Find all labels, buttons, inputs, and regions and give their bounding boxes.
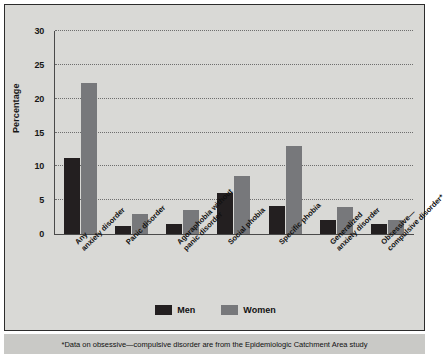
footnote-text: *Data on obsessive—compulsive disorder a… — [62, 340, 368, 349]
legend-item-women: Women — [221, 305, 275, 315]
legend-swatch-women — [221, 305, 238, 315]
y-tick-label-0: 0 — [39, 229, 49, 239]
legend-label-women: Women — [243, 305, 275, 315]
bar-men — [115, 226, 131, 234]
bar-group — [157, 31, 208, 234]
y-tick-label-30: 30 — [34, 26, 49, 36]
y-tick-label-5: 5 — [39, 195, 49, 205]
legend-swatch-men — [155, 305, 172, 315]
chart-legend: MenWomen — [5, 305, 426, 315]
legend-item-men: Men — [155, 305, 195, 315]
y-tick-label-20: 20 — [34, 94, 49, 104]
bar-men — [320, 220, 336, 234]
bar-men — [64, 158, 80, 234]
bar-men — [371, 224, 387, 234]
y-tick-label-15: 15 — [34, 128, 49, 138]
bar-women — [81, 83, 97, 234]
y-tick-label-10: 10 — [34, 161, 49, 171]
legend-label-men: Men — [177, 305, 195, 315]
bar-group — [55, 31, 106, 234]
bar-men — [269, 206, 285, 234]
y-tick-label-25: 25 — [34, 60, 49, 70]
footnote-strip: *Data on obsessive—compulsive disorder a… — [4, 334, 425, 354]
bar-group — [260, 31, 311, 234]
y-axis-label: Percentage — [11, 83, 21, 133]
chart-panel: Percentage 051015202530 Anyanxiety disor… — [4, 4, 425, 331]
bar-men — [166, 224, 182, 234]
